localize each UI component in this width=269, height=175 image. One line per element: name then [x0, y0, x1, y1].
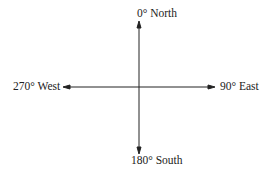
- west-arrowhead-icon: [63, 85, 70, 89]
- east-label: 90° East: [220, 81, 259, 93]
- west-label: 270° West: [13, 81, 60, 93]
- east-arrowhead-icon: [208, 85, 215, 89]
- south-label: 180° South: [131, 155, 183, 167]
- north-arrowhead-icon: [137, 21, 141, 28]
- south-arrowhead-icon: [137, 147, 141, 154]
- north-label: 0° North: [137, 8, 177, 20]
